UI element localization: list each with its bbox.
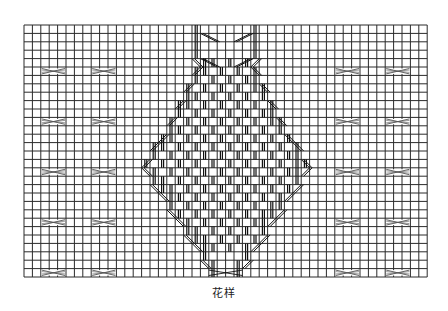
chart-caption: 花样 [0,284,448,300]
knitting-chart [0,0,448,311]
chart-grid [24,25,427,277]
